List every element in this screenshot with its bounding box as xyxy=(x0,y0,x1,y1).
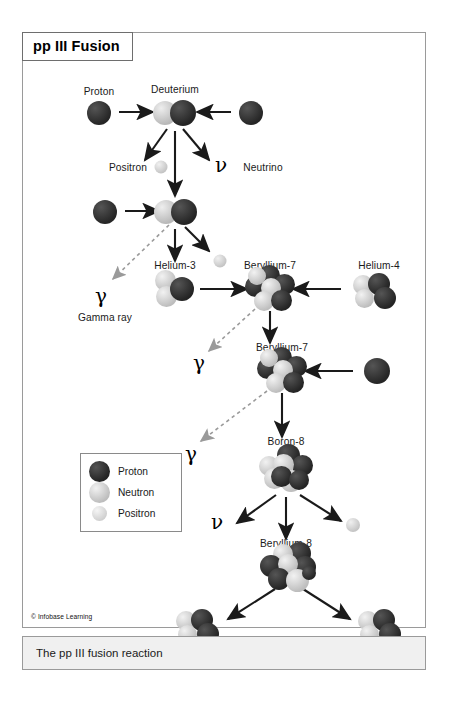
figure-title: pp III Fusion xyxy=(22,32,133,61)
particle-positron-1 xyxy=(155,161,168,174)
label-positron-1: Positron xyxy=(109,162,147,173)
legend-row-proton: Proton xyxy=(89,461,175,482)
symbol-gamma-1: γ xyxy=(95,284,107,308)
symbol-gamma-3: γ xyxy=(185,442,197,466)
label-deuterium: Deuterium xyxy=(151,84,199,95)
label-proton: Proton xyxy=(84,86,115,97)
particle-helium-4-in xyxy=(353,273,397,309)
particle-deuterium-2 xyxy=(154,199,198,225)
proton-swatch-icon xyxy=(89,461,111,483)
diagram-canvas: Proton Deuterium Positron ν Neutrino γ G… xyxy=(23,33,425,627)
particle-proton-4 xyxy=(364,358,390,384)
particle-positron-3 xyxy=(346,518,360,532)
particle-proton-2 xyxy=(239,101,263,125)
symbol-neutrino-2: ν xyxy=(211,510,223,534)
particle-deuterium-1 xyxy=(153,100,197,126)
legend-row-neutron: Neutron xyxy=(89,482,175,503)
figure-caption-text: The pp III fusion reaction xyxy=(36,647,163,659)
label-gamma-ray: Gamma ray xyxy=(78,312,132,323)
label-helium4-in: Helium-4 xyxy=(358,260,400,271)
label-helium3: Helium-3 xyxy=(154,260,196,271)
particle-helium-3 xyxy=(155,270,195,308)
particle-beryllium-7-a xyxy=(245,265,295,313)
particle-proton-1 xyxy=(87,101,111,125)
copyright-credit: © Infobase Learning xyxy=(31,613,92,620)
legend-label-neutron: Neutron xyxy=(118,487,154,498)
arrow-layer xyxy=(23,33,427,629)
figure-caption-bar: The pp III fusion reaction xyxy=(22,636,426,670)
legend-row-positron: Positron xyxy=(89,503,175,524)
particle-beryllium-8 xyxy=(260,542,316,592)
symbol-neutrino-1: ν xyxy=(215,153,227,177)
legend-label-positron: Positron xyxy=(118,508,155,519)
positron-swatch-icon xyxy=(89,503,111,525)
particle-proton-3 xyxy=(93,200,117,224)
neutron-swatch-icon xyxy=(89,482,111,504)
legend-label-proton: Proton xyxy=(118,466,148,477)
particle-positron-2 xyxy=(214,255,227,268)
figure-panel: pp III Fusion xyxy=(22,32,426,628)
particle-boron-8 xyxy=(259,444,313,494)
particle-beryllium-7-b xyxy=(257,347,307,395)
label-neutrino-1: Neutrino xyxy=(243,162,282,173)
symbol-gamma-2: γ xyxy=(193,351,205,375)
legend-box: Proton Neutron Positron xyxy=(80,453,182,532)
